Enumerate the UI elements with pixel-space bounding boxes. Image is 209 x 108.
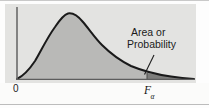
- axis-critical-value-label: Fα: [144, 84, 155, 99]
- f-distribution-figure: Area or Probability 0 Fα: [0, 0, 209, 108]
- critical-value-subscript: α: [151, 92, 155, 101]
- critical-value-symbol: F: [144, 84, 151, 96]
- callout-text-line-1: Area or: [131, 27, 165, 38]
- callout-text-line-2: Probability: [127, 39, 176, 50]
- axis-origin-label: 0: [13, 84, 19, 95]
- figure-bottom-rule: [0, 104, 209, 105]
- figure-top-rule: [0, 0, 209, 1]
- figure-lower-margin: [0, 83, 209, 104]
